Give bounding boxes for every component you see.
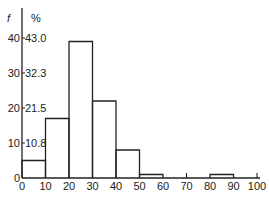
x-tick-label: 10 — [39, 180, 51, 192]
y-tick-label: 10 — [8, 137, 20, 149]
x-tick-label: 100 — [248, 180, 266, 192]
y-percent-label: 10.8 — [25, 137, 46, 149]
x-tick-label: 20 — [63, 180, 75, 192]
x-tick-label: 30 — [86, 180, 98, 192]
x-tick-label: 40 — [110, 180, 122, 192]
y-percent-label: 43.0 — [25, 32, 46, 44]
histogram-bar — [116, 150, 140, 178]
y-percent-label: 32.3 — [25, 67, 46, 79]
histogram-bars — [22, 42, 234, 179]
x-tick-label: 70 — [180, 180, 192, 192]
axes — [22, 8, 260, 178]
histogram-bar — [22, 161, 46, 179]
y-tick-label: 0 — [14, 172, 20, 184]
y-percent-label: 21.5 — [25, 102, 46, 114]
y-tick-label: 40 — [8, 32, 20, 44]
y-tick-label: 30 — [8, 67, 20, 79]
x-tick-label: 50 — [133, 180, 145, 192]
histogram-bar — [93, 101, 117, 178]
x-tick-label: 60 — [157, 180, 169, 192]
x-tick-label: 80 — [204, 180, 216, 192]
x-tick-label: 90 — [227, 180, 239, 192]
y-axis-title-percent: % — [31, 12, 41, 24]
histogram-bar — [69, 42, 93, 179]
histogram-bar — [46, 119, 70, 179]
histogram-chart: 010203040506070809010001020304010.821.53… — [0, 0, 269, 197]
y-tick-label: 20 — [8, 102, 20, 114]
y-axis-title-f: f — [7, 12, 11, 24]
